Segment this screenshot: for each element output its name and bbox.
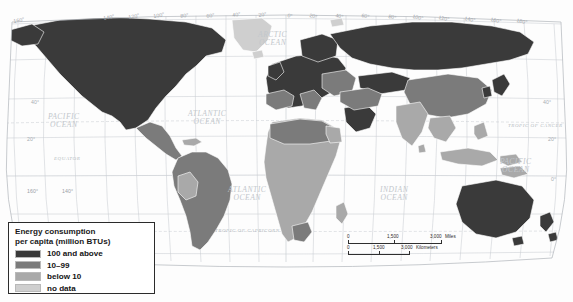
- legend-swatch: [15, 261, 41, 269]
- legend-swatch: [15, 272, 41, 280]
- pacific-ocean-east-label: PACIFICOCEAN: [500, 158, 532, 175]
- legend-entry: below 10: [14, 271, 149, 282]
- scale-miles-end: 3,000: [430, 234, 442, 239]
- legend-swatch: [15, 284, 41, 292]
- indian-ocean-label: INDIANOCEAN: [380, 186, 408, 203]
- legend-label: 100 and above: [47, 249, 103, 258]
- scale-miles-mid: 1,500: [387, 234, 399, 239]
- legend-title-line-2: per capita (million BTUs): [15, 237, 149, 247]
- latitude-label: 0°: [551, 176, 556, 182]
- ocean-label-line-2: OCEAN: [380, 194, 408, 202]
- legend-entries: 100 and above10–99below 10no data: [14, 248, 149, 294]
- legend-title-line-1: Energy consumption: [15, 227, 149, 237]
- scale-bar-line-miles: [348, 240, 442, 244]
- latitude-label: 40°: [543, 99, 551, 105]
- legend-entry: no data: [14, 282, 149, 293]
- scale-bar: 0 1,500 3,000 Miles 0 1,500 3,000 Kilome…: [348, 234, 468, 258]
- tropic-of-capricorn-label: TROPIC OF CAPRICORN: [215, 228, 280, 233]
- legend-title: Energy consumption per capita (million B…: [15, 227, 149, 246]
- latitude-label: 20°: [548, 136, 556, 142]
- legend-entry: 100 and above: [14, 248, 149, 259]
- latitude-label: 40°: [31, 99, 39, 105]
- atlantic-ocean-south-label: ATLANTICOCEAN: [228, 186, 266, 203]
- scale-km-mid: 1,500: [373, 245, 385, 250]
- ocean-label-line-2: OCEAN: [500, 166, 532, 174]
- scale-bar-line-kilometers: [348, 251, 410, 255]
- longitude-label: 140°: [62, 188, 73, 194]
- scale-km-start: 0: [347, 245, 350, 250]
- atlantic-ocean-north-label: ATLANTICOCEAN: [188, 110, 226, 127]
- legend-swatch: [15, 250, 41, 258]
- map-legend: Energy consumption per capita (million B…: [8, 222, 155, 294]
- ocean-label-line-2: OCEAN: [188, 118, 226, 126]
- landmasses: [10, 17, 558, 250]
- ocean-label-line-2: OCEAN: [48, 121, 80, 129]
- legend-label: below 10: [47, 272, 81, 281]
- scale-km-unit: Kilometers: [416, 245, 438, 250]
- legend-entry: 10–99: [14, 260, 149, 271]
- scale-tick-km-mid: [379, 251, 380, 254]
- ocean-label-line-2: OCEAN: [258, 39, 287, 47]
- legend-label: no data: [47, 284, 76, 293]
- tropic-of-cancer-label: TROPIC OF CANCER: [508, 123, 563, 128]
- ocean-label-line-2: OCEAN: [228, 194, 266, 202]
- equator-label: EQUATOR: [54, 156, 80, 161]
- arctic-ocean-label: ARCTICOCEAN: [258, 31, 287, 48]
- longitude-label: 160°: [27, 188, 38, 194]
- scale-miles-start: 0: [347, 234, 350, 239]
- latitude-label: 20°: [27, 136, 35, 142]
- scale-km-end: 3,000: [401, 245, 413, 250]
- longitude-label: 80°: [388, 13, 397, 20]
- world-map: 160°140°120°100°80°60°40°20°0°20°40°60°8…: [0, 0, 573, 302]
- legend-label: 10–99: [47, 261, 70, 270]
- longitude-label: 60°: [206, 11, 215, 18]
- scale-miles-unit: Miles: [445, 234, 456, 239]
- scale-tick-miles-mid: [394, 240, 395, 243]
- pacific-ocean-west-label: PACIFICOCEAN: [48, 113, 80, 130]
